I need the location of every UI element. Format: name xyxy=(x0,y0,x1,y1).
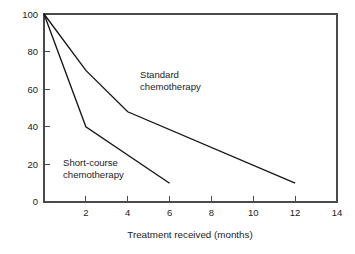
short-course-chemotherapy-label-line2: chemotherapy xyxy=(63,169,124,180)
x-axis-tick-labels: 2 4 6 8 10 12 14 xyxy=(83,207,342,218)
y-tick-label-20: 20 xyxy=(27,159,38,170)
standard-chemotherapy-label-line1: Standard xyxy=(140,69,179,80)
y-tick-label-40: 40 xyxy=(27,121,38,132)
chart-figure: 0 20 40 60 80 100 2 4 6 8 10 12 14 Treat… xyxy=(0,0,355,254)
y-axis-ticks xyxy=(44,14,50,202)
x-axis-ticks xyxy=(86,196,337,202)
line-chart: 0 20 40 60 80 100 2 4 6 8 10 12 14 Treat… xyxy=(0,0,355,254)
short-course-chemotherapy-label-line1: Short-course xyxy=(63,157,118,168)
y-tick-label-60: 60 xyxy=(27,84,38,95)
standard-chemotherapy-annotation: Standard chemotherapy xyxy=(140,69,201,92)
x-tick-label-4: 4 xyxy=(125,207,130,218)
x-tick-label-6: 6 xyxy=(167,207,172,218)
y-tick-label-80: 80 xyxy=(27,46,38,57)
y-tick-label-0: 0 xyxy=(33,196,38,207)
x-tick-label-8: 8 xyxy=(209,207,214,218)
y-axis-tick-labels: 0 20 40 60 80 100 xyxy=(22,9,38,208)
short-course-chemotherapy-annotation: Short-course chemotherapy xyxy=(63,157,124,180)
x-tick-label-14: 14 xyxy=(332,207,343,218)
x-tick-label-10: 10 xyxy=(248,207,259,218)
x-tick-label-12: 12 xyxy=(290,207,301,218)
standard-chemotherapy-label-line2: chemotherapy xyxy=(140,81,201,92)
x-tick-label-2: 2 xyxy=(83,207,88,218)
y-tick-label-100: 100 xyxy=(22,9,38,20)
x-axis-title: Treatment received (months) xyxy=(127,229,252,240)
